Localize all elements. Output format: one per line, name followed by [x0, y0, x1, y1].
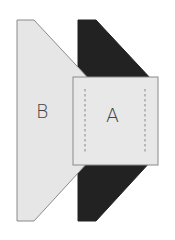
label-a: A: [106, 104, 119, 126]
label-b: B: [36, 100, 48, 122]
diagram-canvas: B A: [0, 0, 175, 240]
